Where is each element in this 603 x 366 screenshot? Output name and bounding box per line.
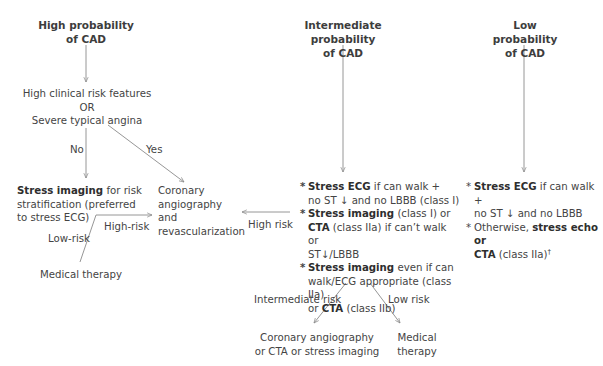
- low-probability-title: Low probability of CAD: [480, 18, 570, 60]
- coronary-revascularization-node: Coronary angiography and revascularizati…: [158, 184, 248, 238]
- high-probability-title: High probability of CAD: [36, 18, 136, 46]
- yes-label: Yes: [146, 143, 162, 156]
- intermediate-bullet-stress-imaging-cta: * Stress imaging (class I) or CTA (class…: [300, 207, 460, 261]
- coronary-angiography-cta-node: Coronary angiography or CTA or stress im…: [252, 331, 382, 358]
- intermediate-bullet-stress-ecg: * Stress ECG if can walk + no ST ↓ and n…: [300, 180, 460, 207]
- high-risk-criteria-node: High clinical risk features OR Severe ty…: [14, 87, 160, 128]
- low-bullet-otherwise: * Otherwise, stress echo or CTA (class I…: [466, 221, 602, 262]
- stress-imaging-node: Stress imaging for risk stratification (…: [17, 184, 157, 225]
- medical-therapy-node-left: Medical therapy: [40, 268, 122, 282]
- intermediate-probability-title: Intermediate probability of CAD: [278, 18, 408, 60]
- low-testing-options: * Stress ECG if can walk + no ST ↓ and n…: [466, 180, 602, 261]
- low-risk-label-left: Low-risk: [48, 232, 90, 245]
- intermediate-bullet-stress-imaging-even: * Stress imaging even if can walk/ECG ap…: [300, 261, 460, 315]
- low-risk-label-intermediate: Low risk: [388, 293, 430, 306]
- high-risk-label-left: High-risk: [104, 220, 149, 233]
- medical-therapy-node-right: Medical therapy: [392, 331, 442, 358]
- no-label: No: [70, 143, 84, 156]
- high-risk-label-intermediate: High risk: [248, 218, 293, 231]
- low-bullet-stress-ecg: * Stress ECG if can walk + no ST ↓ and n…: [466, 180, 602, 221]
- intermediate-risk-label: Intermediate risk: [254, 293, 341, 306]
